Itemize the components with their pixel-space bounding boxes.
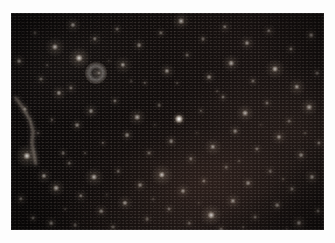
plate-border [11, 13, 324, 230]
page-canvas [0, 0, 335, 243]
star-field-image [11, 13, 324, 230]
